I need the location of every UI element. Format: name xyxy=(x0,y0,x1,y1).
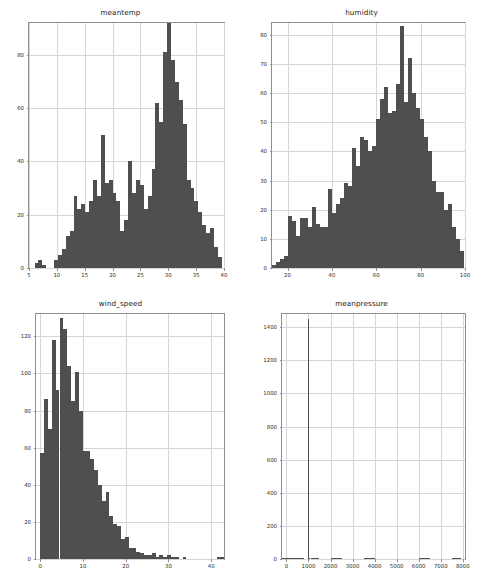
x-axis-tick xyxy=(168,268,169,271)
x-axis-tick-label: 7000 xyxy=(434,563,448,569)
y-axis-tick xyxy=(270,151,273,152)
histogram-bar xyxy=(221,557,224,559)
y-axis-tick xyxy=(34,485,37,486)
x-axis-tick-label: 10 xyxy=(80,563,87,569)
y-axis-tick-label: 70 xyxy=(260,61,267,67)
x-axis-tick xyxy=(421,268,422,271)
x-axis-tick xyxy=(376,268,377,271)
y-axis-tick-label: 0 xyxy=(264,265,267,271)
y-axis-tick-label: 40 xyxy=(17,158,24,164)
x-axis-tick xyxy=(83,559,84,562)
y-axis-tick-label: 20 xyxy=(17,212,24,218)
y-axis-tick-label: 80 xyxy=(17,52,24,58)
y-axis-tick-label: 0 xyxy=(28,556,31,562)
x-axis-tick-label: 25 xyxy=(137,272,144,278)
histogram-bar xyxy=(42,265,46,268)
x-axis-tick-label: 100 xyxy=(460,272,470,278)
y-axis-tick xyxy=(34,559,37,560)
gridline-vertical xyxy=(465,23,466,268)
y-axis-tick xyxy=(270,210,273,211)
x-axis-tick xyxy=(331,559,332,562)
x-axis-tick-label: 40 xyxy=(221,272,228,278)
y-axis-tick xyxy=(270,268,273,269)
gridline-horizontal xyxy=(29,268,224,269)
y-axis-tick xyxy=(27,161,30,162)
y-axis-tick xyxy=(34,448,37,449)
y-axis-tick xyxy=(270,64,273,65)
x-axis-tick xyxy=(308,559,309,562)
histogram-bar xyxy=(364,558,375,559)
y-axis-tick-label: 20 xyxy=(24,519,31,525)
histogram-bar xyxy=(175,557,179,559)
x-axis-tick xyxy=(419,559,420,562)
x-axis-tick xyxy=(57,268,58,271)
y-axis-tick xyxy=(270,122,273,123)
x-axis-tick xyxy=(465,268,466,271)
histogram-bars xyxy=(282,314,465,559)
x-axis-tick xyxy=(397,559,398,562)
subplot-title-meanpressure: meanpressure xyxy=(241,299,482,309)
histogram-bars xyxy=(272,23,465,268)
y-axis-tick xyxy=(34,411,37,412)
y-axis-tick xyxy=(270,239,273,240)
x-axis-tick xyxy=(29,268,30,271)
y-axis-tick-label: 40 xyxy=(24,482,31,488)
x-axis-tick xyxy=(286,559,287,562)
subplot-meantemp: meantemp 510152025303540020406080 xyxy=(0,8,241,291)
y-axis-tick xyxy=(27,108,30,109)
plot-area-wind-speed: 010203040020406080100120 xyxy=(35,313,225,560)
y-axis-tick-label: 0 xyxy=(21,265,24,271)
gridline-vertical xyxy=(224,23,225,268)
x-axis-tick xyxy=(211,559,212,562)
x-axis-tick-label: 1000 xyxy=(302,563,316,569)
gridline-horizontal xyxy=(272,268,465,269)
x-axis-tick-label: 2000 xyxy=(324,563,338,569)
x-axis-tick-label: 5 xyxy=(27,272,30,278)
x-axis-tick-label: 3000 xyxy=(346,563,360,569)
x-axis-tick xyxy=(85,268,86,271)
x-axis-tick-label: 4000 xyxy=(368,563,382,569)
y-axis-tick-label: 100 xyxy=(21,370,31,376)
x-axis-tick xyxy=(463,559,464,562)
subplot-meanpressure: meanpressure 010002000300040005000600070… xyxy=(241,299,482,582)
y-axis-tick xyxy=(280,393,283,394)
y-axis-tick-label: 40 xyxy=(260,148,267,154)
subplot-title-meantemp: meantemp xyxy=(0,8,241,18)
y-axis-tick xyxy=(27,268,30,269)
x-axis-tick-label: 10 xyxy=(53,272,60,278)
histogram-bar xyxy=(452,558,461,559)
histogram-bar xyxy=(218,257,222,268)
x-axis-tick-label: 8000 xyxy=(456,563,470,569)
x-axis-tick xyxy=(332,268,333,271)
x-axis-tick xyxy=(40,559,41,562)
y-axis-tick-label: 60 xyxy=(260,90,267,96)
y-axis-tick xyxy=(280,360,283,361)
y-axis-tick-label: 400 xyxy=(267,490,277,496)
y-axis-tick-label: 10 xyxy=(260,236,267,242)
histogram-bar xyxy=(311,558,320,559)
x-axis-tick-label: 0 xyxy=(285,563,288,569)
x-axis-tick xyxy=(441,559,442,562)
x-axis-tick-label: 20 xyxy=(109,272,116,278)
y-axis-tick-label: 60 xyxy=(24,445,31,451)
histogram-bar xyxy=(282,558,303,559)
y-axis-tick-label: 50 xyxy=(260,119,267,125)
y-axis-tick-label: 120 xyxy=(21,333,31,339)
x-axis-tick xyxy=(224,268,225,271)
y-axis-tick xyxy=(34,522,37,523)
y-axis-tick xyxy=(270,35,273,36)
gridline-horizontal xyxy=(36,559,224,560)
y-axis-tick xyxy=(280,526,283,527)
x-axis-tick xyxy=(168,559,169,562)
y-axis-tick-label: 20 xyxy=(260,207,267,213)
y-axis-tick-label: 600 xyxy=(267,457,277,463)
y-axis-tick-label: 60 xyxy=(17,105,24,111)
y-axis-tick-label: 80 xyxy=(24,408,31,414)
x-axis-tick-label: 20 xyxy=(284,272,291,278)
y-axis-tick xyxy=(270,181,273,182)
histogram-bar xyxy=(419,558,430,559)
x-axis-tick xyxy=(288,268,289,271)
y-axis-tick xyxy=(34,336,37,337)
subplot-wind-speed: wind_speed 010203040020406080100120 xyxy=(0,299,241,582)
y-axis-tick xyxy=(27,55,30,56)
